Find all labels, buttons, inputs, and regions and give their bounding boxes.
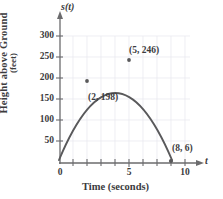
data-point-marker-5-246 — [127, 58, 131, 62]
y-axis — [56, 11, 63, 164]
y-tick-label-100: 100 — [28, 114, 54, 124]
x-tick-label-5: 5 — [117, 167, 141, 177]
x-tick-label-10: 10 — [173, 167, 197, 177]
annotation-point-8-6: (8, 6) — [172, 143, 193, 153]
y-axis-variable-label: s(t) — [61, 1, 74, 12]
annotation-point-5-246: (5, 246) — [129, 45, 159, 55]
y-tick-label-300: 300 — [28, 30, 54, 40]
parabolic-trajectory-chart: Height above Ground (feet) Time (seconds… — [0, 0, 223, 199]
x-axis-title-text: Time (seconds) — [82, 181, 149, 192]
x-tick-label-0: 0 — [48, 167, 72, 177]
y-tick-label-150: 150 — [28, 93, 54, 103]
grid-lines — [60, 36, 190, 163]
y-tick-label-50: 50 — [28, 135, 54, 145]
y-tick-label-200: 200 — [28, 72, 54, 82]
y-tick-label-250: 250 — [28, 51, 54, 61]
x-axis-variable-label: t — [205, 155, 208, 166]
data-point-marker-8-6 — [169, 159, 173, 163]
y-axis-title-units: (feet) — [9, 4, 18, 122]
y-axis-title: Height above Ground (feet) — [0, 4, 28, 122]
x-axis-title: Time (seconds) — [0, 181, 223, 192]
trajectory-curve — [59, 93, 172, 160]
annotation-point-2-198: (2, 198) — [88, 92, 118, 102]
data-point-marker-2-198 — [85, 79, 89, 83]
x-axis — [59, 159, 204, 167]
